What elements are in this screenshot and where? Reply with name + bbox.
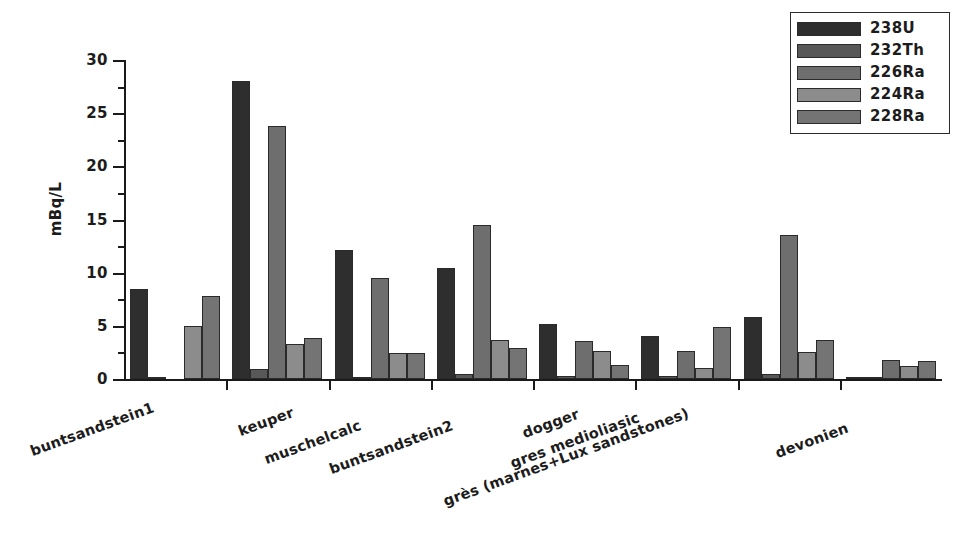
bar	[353, 377, 371, 379]
y-tick-major	[113, 166, 124, 168]
bar	[491, 340, 509, 379]
y-tick-major	[113, 60, 124, 62]
x-category-label: devonien	[773, 420, 851, 461]
bar-group	[635, 60, 737, 379]
bar	[455, 374, 473, 379]
bar	[407, 353, 425, 379]
bar	[539, 324, 557, 379]
legend-label: 226Ra	[870, 65, 925, 80]
legend-item: 232Th	[797, 40, 943, 61]
bar	[268, 126, 286, 379]
x-category-label: keuper	[236, 404, 296, 439]
bar	[713, 327, 731, 379]
y-tick-label: 10	[68, 264, 108, 282]
y-tick-major	[113, 220, 124, 222]
bar	[641, 336, 659, 379]
x-tick	[431, 381, 433, 390]
legend-label: 238U	[870, 21, 915, 36]
x-tick	[226, 381, 228, 390]
x-tick	[635, 381, 637, 390]
bar	[900, 366, 918, 379]
bar-group	[431, 60, 533, 379]
bar	[575, 341, 593, 379]
bar	[882, 360, 900, 379]
legend-item: 226Ra	[797, 62, 943, 83]
bar	[864, 377, 882, 379]
bar	[184, 326, 202, 379]
bar-group	[226, 60, 328, 379]
bar-group	[329, 60, 431, 379]
y-tick-major	[113, 113, 124, 115]
x-tick	[533, 381, 535, 390]
bar-chart-figure: 051015202530 mBq/L buntsandstein1keuperm…	[0, 0, 965, 555]
bar	[437, 268, 455, 379]
y-tick-label: 15	[68, 211, 108, 229]
y-tick-major	[113, 326, 124, 328]
bar	[659, 376, 677, 379]
bar	[744, 317, 762, 379]
bar	[232, 81, 250, 379]
legend-swatch	[797, 66, 861, 80]
legend-swatch	[797, 22, 861, 36]
y-tick-major	[113, 379, 124, 381]
bar	[509, 348, 527, 379]
bar	[816, 340, 834, 379]
legend-swatch	[797, 110, 861, 124]
bar	[762, 374, 780, 379]
legend-item: 228Ra	[797, 106, 943, 127]
bar	[593, 351, 611, 379]
y-tick-major	[113, 273, 124, 275]
bar	[695, 368, 713, 379]
legend-label: 232Th	[870, 43, 924, 58]
y-tick-label: 0	[68, 370, 108, 388]
bar	[389, 353, 407, 379]
legend: 238U232Th226Ra224Ra228Ra	[790, 12, 950, 134]
bar	[250, 369, 268, 379]
bar	[780, 235, 798, 379]
bar	[677, 351, 695, 379]
y-tick-label: 20	[68, 157, 108, 175]
x-tick	[738, 381, 740, 390]
bar	[304, 338, 322, 379]
y-axis-title: mBq/L	[47, 149, 65, 269]
bar	[846, 377, 864, 379]
bar	[202, 296, 220, 379]
bar	[798, 352, 816, 379]
y-tick-label: 5	[68, 317, 108, 335]
bar	[918, 361, 936, 379]
bar	[611, 365, 629, 379]
y-tick-label: 25	[68, 104, 108, 122]
bar	[371, 278, 389, 379]
bar	[557, 376, 575, 379]
legend-item: 238U	[797, 18, 943, 39]
x-tick	[329, 381, 331, 390]
legend-label: 228Ra	[870, 109, 925, 124]
bar	[473, 225, 491, 379]
y-tick-label: 30	[68, 51, 108, 69]
bar-group	[533, 60, 635, 379]
bar-group	[124, 60, 226, 379]
bar	[335, 250, 353, 379]
legend-swatch	[797, 88, 861, 102]
legend-item: 224Ra	[797, 84, 943, 105]
legend-swatch	[797, 44, 861, 58]
x-category-label: buntsandstein1	[28, 399, 156, 459]
x-tick	[840, 381, 842, 390]
bar	[286, 344, 304, 379]
bar	[148, 377, 166, 379]
bar	[130, 289, 148, 379]
legend-label: 224Ra	[870, 87, 925, 102]
